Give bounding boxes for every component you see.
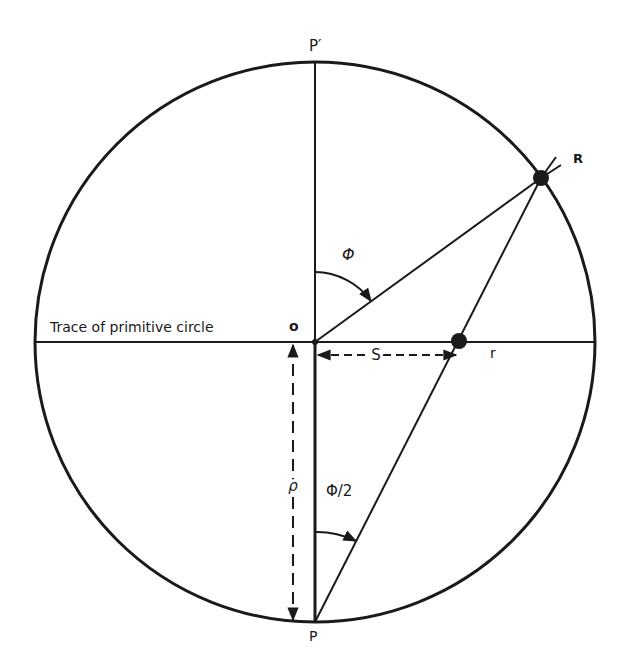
label-primitive-trace: Trace of primitive circle	[49, 319, 214, 335]
label-point-R: R	[573, 151, 583, 166]
label-bottom-pole: P	[309, 628, 317, 644]
angle-phi-arc	[315, 272, 371, 301]
label-center-o: o	[289, 318, 299, 334]
label-point-r: r	[490, 345, 496, 361]
point-o-dot	[312, 339, 318, 345]
label-top-pole: P′	[309, 37, 322, 55]
point-R-dot	[533, 170, 549, 186]
label-angle-phi: Φ	[342, 245, 355, 264]
point-r-dot	[451, 333, 467, 349]
stereographic-projection-diagram: P′ P o R r Trace of primitive circle Φ Φ…	[0, 0, 625, 665]
label-angle-half-phi: Φ/2	[326, 482, 352, 500]
angle-half-phi-arc	[315, 532, 356, 541]
label-distance-s: S	[371, 346, 381, 364]
label-radius-rho: ρ	[288, 477, 298, 495]
